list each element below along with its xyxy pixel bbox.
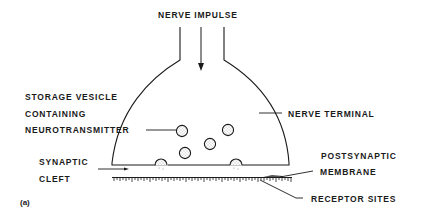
vesicle-icon [204, 138, 215, 149]
postsynaptic-membrane-label-line2: MEMBRANE [320, 168, 376, 177]
synapse-diagram: NERVE IMPULSE STORAGE VESICLE CONTAINING… [0, 0, 426, 223]
panel-label: (a) [20, 199, 30, 207]
vesicle-icon [179, 147, 190, 158]
storage-vesicle-label-line3: NEUROTRANSMITTER [25, 126, 129, 135]
vesicle-icon [222, 124, 233, 135]
fused-vesicles [155, 159, 242, 170]
storage-vesicle-label-line2: CONTAINING [25, 110, 86, 119]
postsynaptic-membrane [112, 175, 292, 182]
nerve-impulse-label: NERVE IMPULSE [158, 11, 238, 20]
synaptic-cleft-label-line2: CLEFT [39, 175, 70, 184]
storage-vesicle-label-line1: STORAGE VESICLE [25, 93, 118, 102]
postsynaptic-membrane-label-line1: POSTSYNAPTIC [321, 152, 397, 161]
storage-vesicles [176, 124, 233, 158]
nerve-terminal-label: NERVE TERMINAL [288, 110, 375, 119]
receptor-sites-label: RECEPTOR SITES [311, 195, 396, 204]
vesicle-icon [176, 125, 187, 136]
synaptic-cleft-label-line1: SYNAPTIC [39, 158, 88, 167]
nerve-impulse-arrow-icon [198, 27, 204, 71]
